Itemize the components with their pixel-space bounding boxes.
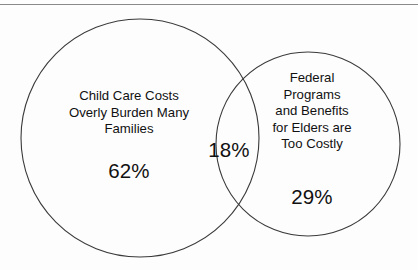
left-set-label: Child Care Costs Overly Burden Many Fami… bbox=[34, 88, 224, 138]
venn-diagram: Child Care Costs Overly Burden Many Fami… bbox=[0, 0, 418, 270]
left-set-percentage: 62% bbox=[64, 158, 194, 184]
right-set-percentage: 29% bbox=[256, 184, 368, 210]
overlap-percentage: 18% bbox=[198, 137, 260, 163]
right-set-label: Federal Programs and Benefits for Elders… bbox=[252, 70, 372, 153]
